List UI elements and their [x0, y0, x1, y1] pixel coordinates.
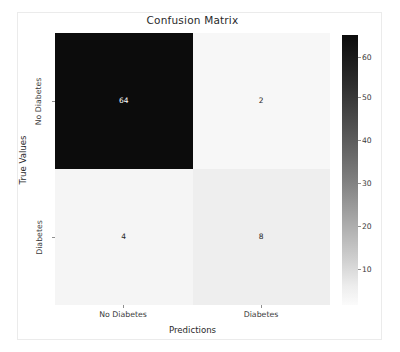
cell-value: 8 — [259, 233, 264, 241]
heatmap-cell-true-nodiabetes-pred-diabetes: 2 — [193, 33, 331, 169]
y-tick-label-text: Diabetes — [35, 220, 44, 255]
cell-value: 64 — [119, 97, 129, 105]
x-tick-label-diabetes: Diabetes — [244, 310, 279, 319]
colorbar-tick-label-60: 60 — [362, 52, 372, 61]
heatmap-cell-true-diabetes-pred-nodiabetes: 4 — [55, 169, 193, 305]
heatmap-grid: 64 2 4 8 — [55, 33, 330, 305]
confusion-matrix-figure: Confusion Matrix 64 2 4 8 No Diabetes Di… — [0, 0, 400, 352]
colorbar-tick-mark — [358, 140, 361, 141]
y-axis-label: True Values — [18, 80, 28, 240]
colorbar-tick-mark — [358, 183, 361, 184]
colorbar-tick-label-10: 10 — [362, 265, 372, 274]
x-tick-mark — [261, 305, 262, 308]
y-tick-mark — [52, 101, 55, 102]
y-tick-label-text: No Diabetes — [35, 77, 44, 125]
cell-value: 2 — [259, 97, 264, 105]
x-tick-label-no-diabetes: No Diabetes — [99, 310, 147, 319]
colorbar-tick-mark — [358, 97, 361, 98]
colorbar-tick-label-30: 30 — [362, 179, 372, 188]
colorbar-tick-mark — [358, 269, 361, 270]
x-tick-mark — [123, 305, 124, 308]
heatmap-cell-true-diabetes-pred-diabetes: 8 — [193, 169, 331, 305]
colorbar-tick-label-50: 50 — [362, 92, 372, 101]
cell-value: 4 — [121, 233, 126, 241]
colorbar-tick-label-40: 40 — [362, 136, 372, 145]
x-axis-label: Predictions — [55, 325, 330, 335]
colorbar: 60 50 40 30 20 10 — [342, 35, 358, 305]
colorbar-tick-label-20: 20 — [362, 222, 372, 231]
y-tick-mark — [52, 237, 55, 238]
colorbar-tick-mark — [358, 57, 361, 58]
colorbar-gradient — [342, 35, 358, 305]
heatmap-cell-true-nodiabetes-pred-nodiabetes: 64 — [55, 33, 193, 169]
page-title: Confusion Matrix — [55, 14, 330, 26]
colorbar-tick-mark — [358, 226, 361, 227]
